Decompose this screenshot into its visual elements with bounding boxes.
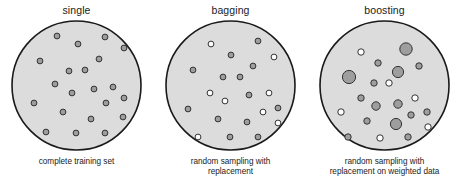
data-point-dot <box>228 52 234 58</box>
data-point-dot <box>255 134 261 140</box>
disc-bagging <box>164 19 297 152</box>
data-point-dot <box>31 100 37 106</box>
data-point-dot <box>255 38 261 44</box>
panel-caption-single: complete training set <box>39 157 115 167</box>
data-point-dot <box>425 124 431 130</box>
data-point-dot <box>416 63 422 69</box>
disc-boosting <box>318 19 451 152</box>
data-point-dot <box>364 118 370 124</box>
sample-pool-circle <box>166 21 295 150</box>
panel-bagging: bagging random sampling with replacement <box>154 0 307 194</box>
data-point-dot <box>120 114 126 120</box>
data-point-dot <box>207 90 213 96</box>
panel-boosting: boosting random sampling with replacemen… <box>308 0 461 194</box>
data-point-dot <box>377 135 383 141</box>
data-point-dot <box>75 41 81 47</box>
data-point-dot <box>96 56 102 62</box>
data-point-dot <box>82 67 88 73</box>
data-point-dot <box>246 92 252 98</box>
data-point-dot <box>405 134 411 140</box>
data-point-dot <box>222 98 228 104</box>
disc-svg-bagging <box>164 19 297 152</box>
ensemble-sampling-figure: single complete training set bagging ran… <box>0 0 461 194</box>
data-point-dot <box>102 34 108 40</box>
caption-line: random sampling with <box>330 157 440 167</box>
data-point-dot <box>244 119 250 125</box>
data-point-dot <box>69 90 75 96</box>
panel-title-single: single <box>62 4 90 16</box>
data-point-dot <box>66 68 72 74</box>
panel-single: single complete training set <box>0 0 153 194</box>
data-point-dot <box>60 109 66 115</box>
data-point-dot <box>103 100 109 106</box>
disc-single <box>10 19 143 152</box>
data-point-dot <box>400 43 412 55</box>
caption-line: replacement on weighted data <box>330 167 440 177</box>
data-point-dot <box>412 95 418 101</box>
data-point-dot <box>250 63 256 69</box>
data-point-dot <box>190 67 196 73</box>
data-point-dot <box>215 116 221 122</box>
data-point-dot <box>102 130 108 136</box>
panel-caption-bagging: random sampling with replacement <box>191 157 271 177</box>
data-point-dot <box>375 60 381 66</box>
data-point-dot <box>37 58 43 64</box>
data-point-dot <box>91 86 97 92</box>
data-point-dot <box>266 90 272 96</box>
data-point-dot <box>358 49 364 55</box>
panel-caption-boosting: random sampling with replacement on weig… <box>330 157 440 177</box>
data-point-dot <box>52 81 58 87</box>
data-point-dot <box>121 95 127 101</box>
panel-title-boosting: boosting <box>364 4 405 16</box>
caption-line: replacement <box>191 167 271 177</box>
data-point-dot <box>424 109 430 115</box>
data-point-dot <box>345 134 351 140</box>
data-point-dot <box>43 129 49 135</box>
data-point-dot <box>338 109 344 115</box>
data-point-dot <box>390 118 401 129</box>
data-point-dot <box>342 70 355 83</box>
data-point-dot <box>54 33 60 39</box>
data-point-dot <box>275 120 281 126</box>
data-point-dot <box>121 45 127 51</box>
data-point-dot <box>394 100 402 108</box>
disc-svg-single <box>10 19 143 152</box>
data-point-dot <box>372 102 380 110</box>
data-point-dot <box>73 130 79 136</box>
data-point-dot <box>195 134 201 140</box>
caption-line: complete training set <box>39 157 115 167</box>
panel-title-bagging: bagging <box>211 4 249 16</box>
data-point-dot <box>358 95 364 101</box>
data-point-dot <box>260 109 266 115</box>
data-point-dot <box>408 112 414 118</box>
data-point-dot <box>220 74 226 80</box>
data-point-dot <box>227 134 233 140</box>
data-point-dot <box>275 105 281 111</box>
data-point-dot <box>392 66 403 77</box>
caption-line: random sampling with <box>191 157 271 167</box>
data-point-dot <box>110 84 116 90</box>
disc-svg-boosting <box>318 19 451 152</box>
data-point-dot <box>185 106 191 112</box>
data-point-dot <box>386 80 392 86</box>
sample-pool-circle <box>320 21 449 150</box>
data-point-dot <box>371 80 377 86</box>
data-point-dot <box>271 54 277 60</box>
data-point-dot <box>208 41 214 47</box>
data-point-dot <box>88 116 94 122</box>
data-point-dot <box>237 74 243 80</box>
